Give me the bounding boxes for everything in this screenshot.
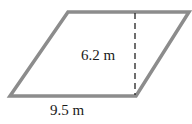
diagram-svg: 6.2 m 9.5 m — [0, 0, 192, 124]
height-label: 6.2 m — [81, 47, 116, 63]
parallelogram-diagram: 6.2 m 9.5 m — [0, 0, 192, 124]
base-label: 9.5 m — [50, 102, 85, 118]
